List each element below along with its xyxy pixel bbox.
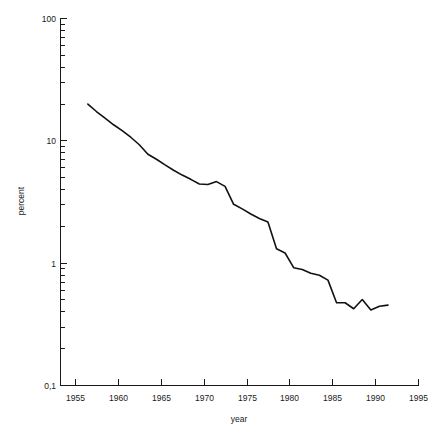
x-tick-label: 1985 [323,393,342,403]
log-line-chart: 1001010,1 percent 1955196019651970197519… [0,0,443,435]
x-tick-label: 1995 [409,393,428,403]
y-axis-major-ticks [61,19,68,386]
y-tick-label: 0,1 [44,381,56,391]
y-tick-label: 100 [42,14,56,24]
y-axis-tick-labels: 1001010,1 [42,14,56,391]
y-axis-title: percent [16,186,26,215]
data-series-group [88,104,388,310]
x-tick-label: 1955 [66,393,85,403]
y-tick-label: 10 [47,136,57,146]
y-axis: 1001010,1 percent [16,14,67,391]
x-tick-label: 1970 [195,393,214,403]
chart-page: 1001010,1 percent 1955196019651970197519… [0,0,443,435]
x-tick-label: 1965 [152,393,171,403]
x-axis: 195519601965197019751980198519901995 yea… [61,379,429,424]
x-axis-title: year [231,414,248,424]
y-axis-minor-ticks [61,25,65,349]
x-tick-label: 1980 [280,393,299,403]
x-axis-major-ticks [76,379,419,386]
x-axis-tick-labels: 195519601965197019751980198519901995 [66,393,428,403]
x-tick-label: 1960 [109,393,128,403]
y-tick-label: 1 [51,259,56,269]
series-line-percent [88,104,388,310]
x-tick-label: 1990 [366,393,385,403]
x-tick-label: 1975 [238,393,257,403]
